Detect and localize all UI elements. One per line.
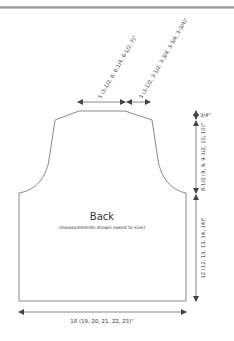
- piece-title: Back: [90, 211, 114, 222]
- piece-subtitle: (measurements shown eased to size): [59, 225, 145, 230]
- back-piece-outline: [19, 111, 186, 301]
- body-length-label: 12 (12, 13, 13, 14, 14)": [200, 218, 206, 279]
- shoulder-slope-label: 3/4": [200, 112, 211, 118]
- neck-width-label: 5 (5-1/2, 6, 6-1/4, 6-1/2, 7)": [97, 34, 138, 99]
- armhole-depth-label: 8-1/2 (9, 9, 9-1/2, 10, 10)": [200, 123, 206, 191]
- schematic-canvas: 5 (5-1/2, 6, 6-1/4, 6-1/2, 7)" 3 (3-1/2,…: [0, 0, 234, 341]
- body-width-label: 18 (19, 20, 21, 22, 23)": [70, 318, 133, 324]
- shoulder-width-label: 3 (3-1/2, 3-1/2, 3-3/4, 3-3/4, 3-3/4)": [138, 17, 189, 100]
